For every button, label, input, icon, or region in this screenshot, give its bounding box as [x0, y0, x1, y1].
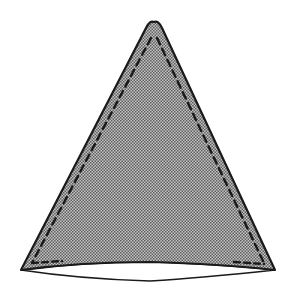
shaded-triangle [21, 22, 275, 270]
triangle-diagram [0, 0, 293, 295]
diagram-canvas [0, 0, 293, 295]
